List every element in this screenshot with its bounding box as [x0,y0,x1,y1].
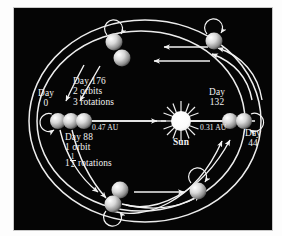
label-sun: Sun [164,137,198,147]
spin-top-right [205,19,223,34]
orbit-stage [14,8,272,230]
label-day0: Day 0 [29,88,63,109]
label-day0-line2: 0 [29,98,63,108]
label-day88-line1: Day 88 [65,132,112,142]
label-day88-rotations: rotations [78,158,112,168]
label-distance-031au: 0.31 AU [200,124,226,133]
figure-root: Day 0 Day 176 2 orbits 3 rotations Day 8… [0,0,282,236]
arrow-up-to-day44-a [112,141,222,213]
label-day176-line2: 2 orbits [73,86,114,96]
sun-disc [171,111,191,131]
planet-top-right [206,33,223,50]
label-day176-line3: 3 rotations [73,97,114,107]
fraction-denominator: 2 [70,161,76,168]
planet-bottom-right [190,183,207,200]
planet-top-lower [114,50,131,67]
label-day0-line1: Day [29,88,63,98]
label-day176: Day 176 2 orbits 3 rotations [73,76,114,107]
planet-day176 [76,113,92,129]
sun-graphic [161,101,201,141]
label-day44-line1: Day [236,128,270,138]
label-day88: Day 88 1 orbit 112 rotations [65,132,112,169]
planet-bottom-left-lower [105,196,122,213]
planet-top-left [106,34,123,51]
label-day132: Day 132 [199,87,235,108]
label-day88-fraction: 12 [70,153,76,169]
label-day88-line3: 112 rotations [65,153,112,169]
label-day132-line1: Day [199,87,235,97]
label-day132-line2: 132 [199,97,235,107]
label-day44-line2: 44 [236,138,270,148]
label-day44: Day 44 [236,128,270,149]
diagram-panel: Day 0 Day 176 2 orbits 3 rotations Day 8… [14,8,272,230]
label-distance-047au: 0.47 AU [92,124,118,133]
planet-day44 [236,113,252,129]
label-day176-line1: Day 176 [73,76,114,86]
